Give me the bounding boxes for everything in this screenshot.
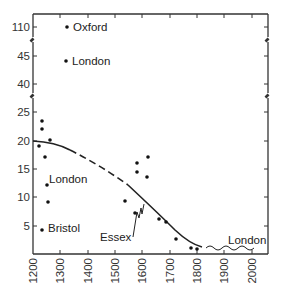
data-point — [195, 247, 199, 251]
x-tick-label: 2000 — [246, 258, 258, 284]
y-tick-label: 15 — [17, 163, 30, 175]
x-tick-label: 1700 — [164, 258, 176, 284]
y-tick-label: 10 — [17, 191, 30, 203]
data-point — [135, 161, 139, 165]
y-tick-label: 25 — [17, 106, 30, 118]
y-ticks — [33, 27, 268, 226]
data-points — [37, 25, 199, 251]
data-point — [133, 211, 137, 215]
data-point — [40, 127, 44, 131]
annotation-essex: Essex — [100, 231, 132, 243]
axes-frame — [30, 14, 269, 254]
annotation-london-mid: London — [49, 173, 87, 185]
x-tick-label: 1900 — [218, 258, 230, 284]
data-point — [145, 175, 149, 179]
x-tick-label: 1200 — [27, 258, 39, 284]
data-point — [43, 155, 47, 159]
data-point — [40, 119, 44, 123]
data-point — [164, 220, 168, 224]
y-tick-label: 20 — [17, 135, 30, 147]
data-point — [189, 246, 193, 250]
x-tick-label: 1800 — [191, 258, 203, 284]
data-point — [146, 155, 150, 159]
annotation-bristol: Bristol — [48, 222, 80, 234]
annotation-oxford: Oxford — [73, 21, 108, 33]
x-ticks — [60, 14, 252, 254]
essex-squiggle — [133, 204, 144, 237]
chart: 110 45 40 25 20 15 10 5 1200 1300 1400 1… — [0, 0, 281, 293]
annotation-london-bottom: London — [228, 234, 266, 246]
data-point — [37, 144, 41, 148]
data-point — [40, 228, 44, 232]
x-tick-label: 1300 — [54, 258, 66, 284]
y-tick-label: 110 — [12, 21, 30, 33]
annotation-london-top: London — [72, 55, 110, 67]
data-point — [64, 59, 68, 63]
x-tick-label: 1600 — [136, 258, 148, 284]
data-point — [157, 217, 161, 221]
data-point — [48, 138, 52, 142]
x-tick-labels: 1200 1300 1400 1500 1600 1700 1800 1900 … — [27, 258, 258, 284]
data-point — [174, 237, 178, 241]
y-tick-label: 40 — [17, 78, 30, 90]
x-tick-label: 1400 — [82, 258, 94, 284]
data-point — [46, 200, 50, 204]
y-tick-labels: 110 45 40 25 20 15 10 5 — [12, 21, 30, 232]
y-tick-label: 5 — [24, 220, 30, 232]
data-point — [135, 170, 139, 174]
data-point — [65, 25, 69, 29]
x-tick-label: 1500 — [109, 258, 121, 284]
y-tick-label: 45 — [17, 50, 30, 62]
data-point — [123, 199, 127, 203]
